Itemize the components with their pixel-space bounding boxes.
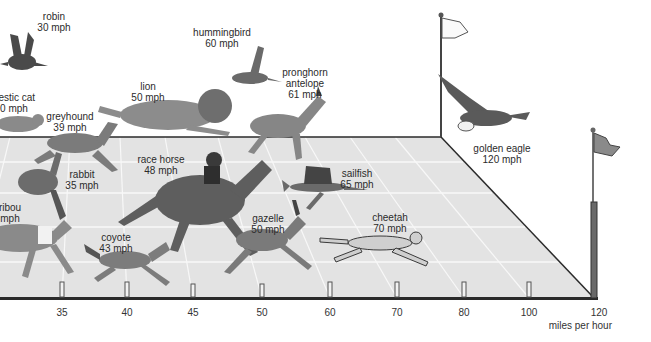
animal-name: ribou xyxy=(0,202,21,213)
animal-name: race horse xyxy=(137,154,184,165)
animal-name: lion xyxy=(131,81,164,92)
animal-speed: 60 mph xyxy=(193,38,251,49)
eagle-icon xyxy=(438,74,530,131)
animal-name: coyote xyxy=(99,232,132,243)
tick-label-100: 100 xyxy=(521,307,538,318)
animal-speed: 43 mph xyxy=(99,243,132,254)
animal-speed: 50 mph xyxy=(251,224,284,235)
label-rabbit: rabbit 35 mph xyxy=(65,169,98,191)
tick-label-50: 50 xyxy=(256,307,267,318)
animal-speed: 65 mph xyxy=(340,179,373,190)
tick-label-60: 60 xyxy=(324,307,335,318)
label-pronghorn-antelope: pronghorn antelope 61 mph xyxy=(282,67,328,100)
animal-speed: 50 mph xyxy=(131,92,164,103)
cat-icon xyxy=(0,114,44,132)
animal-speed: 30 mph xyxy=(37,22,70,33)
axis-unit-label: miles per hour xyxy=(549,320,612,331)
label-cheetah: cheetah 70 mph xyxy=(372,212,408,234)
animal-speed: mph xyxy=(0,213,21,224)
label-hummingbird: hummingbird 60 mph xyxy=(193,27,251,49)
label-gazelle: gazelle 50 mph xyxy=(251,213,284,235)
animal-name: golden eagle xyxy=(473,143,530,154)
tick-label-35: 35 xyxy=(56,307,67,318)
animal-name: sailfish xyxy=(340,168,373,179)
animal-name: cheetah xyxy=(372,212,408,223)
animal-name: hummingbird xyxy=(193,27,251,38)
animal-name: greyhound xyxy=(46,111,93,122)
robin-icon xyxy=(0,32,48,70)
tick-label-120: 120 xyxy=(591,307,608,318)
animal-speed: 61 mph xyxy=(282,89,328,100)
lion-icon xyxy=(98,89,232,136)
front-flagpole xyxy=(591,128,621,299)
tick-label-80: 80 xyxy=(458,307,469,318)
label-race-horse: race horse 48 mph xyxy=(137,154,184,176)
tick-label-40: 40 xyxy=(121,307,132,318)
tick-label-45: 45 xyxy=(187,307,198,318)
label-domestic-cat: nestic cat 0 mph xyxy=(0,92,35,114)
animal-name: rabbit xyxy=(65,169,98,180)
animal-speed: 70 mph xyxy=(372,223,408,234)
label-sailfish: sailfish 65 mph xyxy=(340,168,373,190)
label-golden-eagle: golden eagle 120 mph xyxy=(473,143,530,165)
animal-name-line2: antelope xyxy=(282,78,328,89)
label-greyhound: greyhound 39 mph xyxy=(46,111,93,133)
label-lion: lion 50 mph xyxy=(131,81,164,103)
animal-speed: 0 mph xyxy=(0,103,35,114)
track-baseline xyxy=(0,297,598,300)
animal-speed: 35 mph xyxy=(65,180,98,191)
animal-speed: 39 mph xyxy=(46,122,93,133)
animal-speed: 120 mph xyxy=(473,154,530,165)
hummingbird-icon xyxy=(232,46,282,84)
tick-label-70: 70 xyxy=(391,307,402,318)
label-caribou: ribou mph xyxy=(0,202,21,224)
animal-name: robin xyxy=(37,11,70,22)
animal-name-line1: pronghorn xyxy=(282,67,328,78)
animal-name: gazelle xyxy=(251,213,284,224)
label-robin: robin 30 mph xyxy=(37,11,70,33)
label-coyote: coyote 43 mph xyxy=(99,232,132,254)
animal-speed: 48 mph xyxy=(137,165,184,176)
animal-name: nestic cat xyxy=(0,92,35,103)
